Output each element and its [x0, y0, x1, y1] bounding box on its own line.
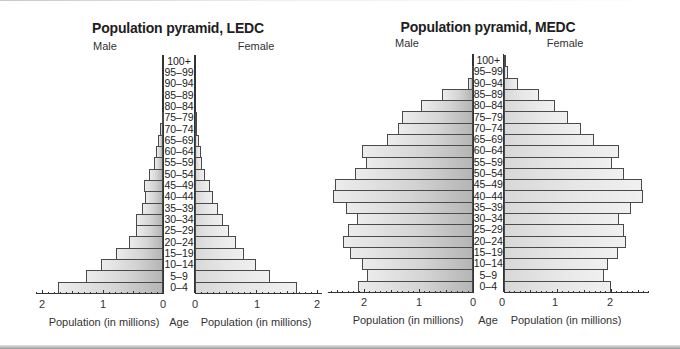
axis-tick: [468, 291, 469, 293]
age-group-label: 20–24: [163, 237, 195, 248]
axis-tick: [90, 292, 91, 294]
axis-tick: [584, 290, 585, 293]
tick-label: 2: [314, 298, 320, 310]
axis-tick: [525, 291, 526, 293]
axis-tick: [84, 292, 85, 294]
axis-tick: [232, 292, 233, 294]
axis-tick: [589, 291, 590, 293]
y-axis-title: Age: [478, 314, 498, 326]
axis-tick: [54, 292, 55, 294]
x-axis-title-female: Population (in millions): [511, 314, 622, 326]
axis-tick: [157, 292, 158, 294]
age-group-label: 90–94: [163, 78, 195, 89]
axis-tick: [353, 291, 354, 293]
axis-tick: [60, 292, 61, 294]
axis-tick: [440, 291, 441, 293]
axis-tick: [262, 292, 263, 294]
axis-tick: [48, 292, 49, 294]
axis-tick: [121, 292, 122, 294]
axis-tick: [96, 292, 97, 294]
axis-tick: [256, 290, 257, 294]
axis-tick: [643, 291, 644, 293]
axis-tick: [611, 289, 612, 293]
axis-tick: [386, 291, 387, 293]
chart-title: Population pyramid, LEDC: [92, 20, 264, 36]
axis-tick: [226, 291, 227, 294]
axis-tick: [109, 292, 110, 294]
axis-tick: [127, 292, 128, 294]
age-group-label: 100+: [163, 56, 195, 67]
axis-tick: [541, 291, 542, 293]
axis-tick: [462, 291, 463, 293]
axis-tick: [219, 292, 220, 294]
male-label: Male: [395, 37, 419, 49]
axis-tick: [419, 289, 420, 293]
axis-tick: [375, 291, 376, 293]
axis-tick: [402, 291, 403, 293]
axis-tick: [504, 289, 505, 293]
axis-tick: [151, 292, 152, 294]
axis-tick: [605, 291, 606, 293]
female-label: Female: [238, 40, 275, 52]
tick-label: 1: [254, 298, 260, 310]
axis-tick: [244, 292, 245, 294]
axis-tick: [408, 291, 409, 293]
axis-tick: [369, 291, 370, 293]
axis-tick: [616, 291, 617, 293]
age-group-label: 10–14: [473, 258, 504, 269]
axis-tick: [163, 290, 164, 294]
axis-tick: [552, 291, 553, 293]
axis-tick: [287, 291, 288, 294]
age-group-label: 55–59: [163, 157, 195, 168]
age-group-label: 10–14: [163, 259, 195, 270]
axis-tick: [201, 292, 202, 294]
axis-tick: [451, 291, 452, 293]
axis-tick: [115, 292, 116, 294]
age-group-label: 80–84: [473, 100, 504, 111]
axis-tick: [391, 290, 392, 293]
axis-tick: [648, 291, 649, 293]
axis-tick: [446, 290, 447, 293]
tick-label: 0: [192, 298, 198, 310]
axis-tick: [299, 292, 300, 294]
axis-tick: [317, 290, 318, 294]
axis-tick: [530, 290, 531, 293]
axis-tick: [139, 292, 140, 294]
axis-tick: [520, 291, 521, 293]
axis-tick: [311, 292, 312, 294]
age-group-label: 45–49: [473, 179, 504, 190]
axis-tick: [78, 292, 79, 294]
tick-label: 2: [607, 296, 613, 308]
axis-tick: [274, 292, 275, 294]
x-axis-title-male: Population (in millions): [49, 316, 160, 328]
bottom-edge: [0, 345, 680, 349]
axis-tick: [424, 291, 425, 293]
tick-label: 1: [416, 296, 422, 308]
male-label: Male: [93, 40, 117, 52]
axis-tick: [473, 289, 474, 293]
axis-tick: [573, 291, 574, 293]
axis-tick: [133, 291, 134, 294]
axis-tick: [337, 290, 338, 293]
axis-tick: [397, 291, 398, 293]
axis-tick: [348, 291, 349, 293]
axis-tick: [293, 292, 294, 294]
age-group-label: 25–29: [163, 225, 195, 236]
axis-tick: [562, 291, 563, 293]
axis-tick: [364, 289, 365, 293]
axis-tick: [557, 289, 558, 293]
axis-tick: [103, 290, 104, 294]
y-axis-title: Age: [169, 316, 189, 328]
axis-tick: [380, 291, 381, 293]
axis-tick: [509, 291, 510, 293]
tick-label: 0: [470, 296, 476, 308]
axis-tick: [213, 292, 214, 294]
axis-tick: [238, 292, 239, 294]
top-edge: [0, 0, 680, 1]
age-group-label: 40–44: [473, 191, 504, 202]
tick-label: 2: [39, 298, 45, 310]
axis-tick: [305, 292, 306, 294]
age-group-label: 40–44: [163, 191, 195, 202]
female-label: Female: [547, 37, 584, 49]
tick-label: 2: [361, 296, 367, 308]
